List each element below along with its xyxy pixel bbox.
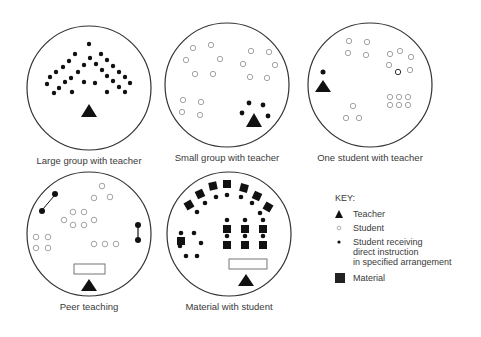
caption-small-group: Small group with teacher (147, 152, 307, 163)
teacher-icon (246, 113, 262, 127)
key-item-material: Material (335, 273, 452, 283)
panel-one-student (308, 23, 432, 147)
key-title: KEY: (335, 193, 452, 203)
teacher-icon (81, 279, 97, 291)
key-item-student: Student (335, 223, 452, 233)
peer-pairs (39, 191, 141, 243)
key-item-teacher: Teacher (335, 209, 452, 219)
caption-material: Material with student (149, 301, 309, 312)
key-item-instructed: Student receiving direct instruction in … (335, 237, 452, 267)
material-table (229, 259, 267, 269)
panel-peer-teaching (27, 172, 151, 296)
material-table (74, 264, 105, 274)
instructed-dot (321, 70, 326, 75)
key-label-instructed-3: in specified arrangement (353, 257, 452, 267)
caption-one-student: One student with teacher (290, 152, 450, 163)
student-circles (343, 38, 413, 120)
filled-dot-icon (335, 237, 347, 247)
key-legend: KEY: Teacher Student Student receiving d… (335, 193, 452, 287)
key-label-material: Material (353, 273, 385, 283)
student-dots (45, 42, 132, 95)
panel-large-group (27, 26, 151, 150)
key-label-student: Student (353, 223, 384, 233)
caption-peer-teaching: Peer teaching (9, 301, 169, 312)
panel-material (167, 172, 291, 296)
key-label-teacher: Teacher (353, 209, 385, 219)
student-circles (33, 183, 119, 251)
teacher-icon (81, 104, 97, 117)
panel-small-group (165, 23, 289, 147)
teacher-icon (238, 274, 254, 286)
triangle-icon (335, 209, 347, 219)
teacher-icon (315, 80, 331, 92)
open-circle-icon (335, 223, 347, 233)
key-label-instructed-2: direct instruction (353, 247, 452, 257)
key-label-instructed-1: Student receiving (353, 237, 452, 247)
caption-large-group: Large group with teacher (9, 155, 169, 166)
filled-square-icon (335, 273, 347, 283)
